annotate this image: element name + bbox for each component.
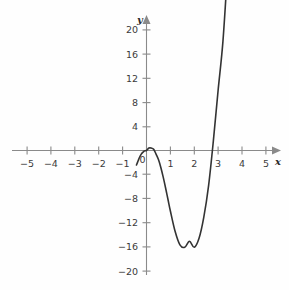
y-tick-label: −12 bbox=[118, 217, 138, 228]
graph-figure: −5 −4 −3 −2 −1 0 1 2 3 4 5 −20 −16 −12 −… bbox=[0, 0, 289, 290]
y-tick-label: 12 bbox=[126, 73, 138, 84]
y-axis-arrow-icon bbox=[143, 15, 151, 24]
x-tick-label: −3 bbox=[68, 158, 82, 169]
y-tick-label: −16 bbox=[118, 241, 138, 252]
y-tick-label: 4 bbox=[132, 121, 138, 132]
x-tick-label: 2 bbox=[191, 158, 197, 169]
x-tick-label: −2 bbox=[92, 158, 106, 169]
y-tick-label: 20 bbox=[126, 24, 138, 35]
cubic-curve bbox=[136, 0, 231, 248]
x-tick-label: 1 bbox=[167, 158, 173, 169]
x-tick-label: 4 bbox=[239, 158, 245, 169]
x-tick-label: 3 bbox=[215, 158, 221, 169]
x-axis-tick-labels: −5 −4 −3 −2 −1 0 1 2 3 4 5 bbox=[20, 154, 269, 169]
x-tick-label: −4 bbox=[44, 158, 58, 169]
y-tick-label: −8 bbox=[124, 193, 138, 204]
y-tick-label: 16 bbox=[126, 49, 138, 60]
x-tick-label: 5 bbox=[263, 158, 269, 169]
y-tick-label: −4 bbox=[124, 169, 138, 180]
cubic-function-plot: −5 −4 −3 −2 −1 0 1 2 3 4 5 −20 −16 −12 −… bbox=[0, 0, 289, 290]
y-axis-label: y bbox=[136, 14, 144, 25]
x-tick-label: −1 bbox=[116, 158, 130, 169]
x-axis-label: x bbox=[274, 156, 282, 167]
x-tick-label: −5 bbox=[20, 158, 34, 169]
y-tick-label: −20 bbox=[118, 266, 138, 277]
x-axis-arrow-icon bbox=[272, 147, 281, 155]
y-tick-label: 8 bbox=[132, 97, 138, 108]
